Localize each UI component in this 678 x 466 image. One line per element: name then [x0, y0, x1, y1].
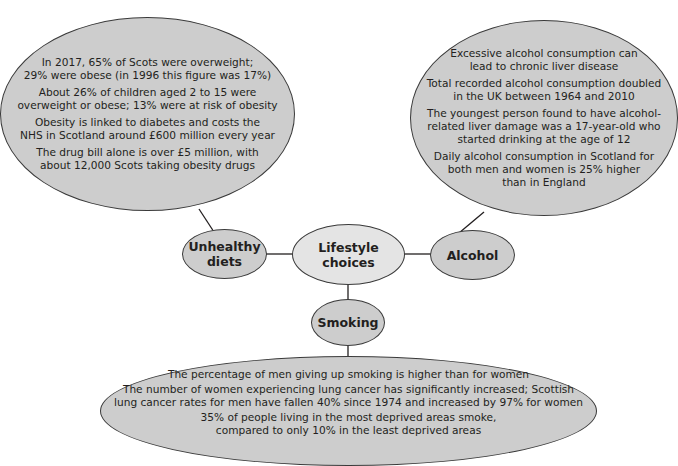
alcohol-fact: Total recorded alcohol consumption doubl… — [427, 77, 662, 103]
smoking-fact: 35% of people living in the most deprive… — [201, 411, 497, 436]
node-unhealthy-diets: Unhealthy diets — [182, 229, 267, 279]
node-label: Unhealthy diets — [188, 239, 260, 269]
alcohol-fact: Daily alcohol consumption in Scotland fo… — [434, 150, 654, 189]
smoking-facts-bubble: The percentage of men giving up smoking … — [100, 356, 597, 466]
alcohol-fact: The youngest person found to have alcoho… — [427, 107, 661, 146]
diets-fact: In 2017, 65% of Scots were overweight; 2… — [24, 56, 271, 82]
node-smoking: Smoking — [311, 299, 385, 346]
smoking-fact: The percentage of men giving up smoking … — [168, 368, 529, 381]
node-alcohol: Alcohol — [430, 230, 515, 280]
node-label: Smoking — [317, 315, 378, 330]
connector-diets-facts — [199, 209, 214, 232]
center-label: Lifestyle choices — [293, 240, 404, 270]
alcohol-fact: Excessive alcohol consumption can lead t… — [450, 47, 638, 73]
diets-fact: About 26% of children aged 2 to 15 were … — [17, 86, 277, 112]
smoking-fact: The number of women experiencing lung ca… — [114, 383, 583, 408]
node-label: Alcohol — [447, 248, 499, 263]
node-lifestyle-choices: Lifestyle choices — [292, 224, 405, 285]
diets-fact: Obesity is linked to diabetes and costs … — [20, 116, 275, 142]
diets-fact: The drug bill alone is over £5 million, … — [36, 146, 259, 172]
alcohol-facts-bubble: Excessive alcohol consumption can lead t… — [410, 20, 678, 216]
diets-facts-bubble: In 2017, 65% of Scots were overweight; 2… — [0, 17, 295, 211]
